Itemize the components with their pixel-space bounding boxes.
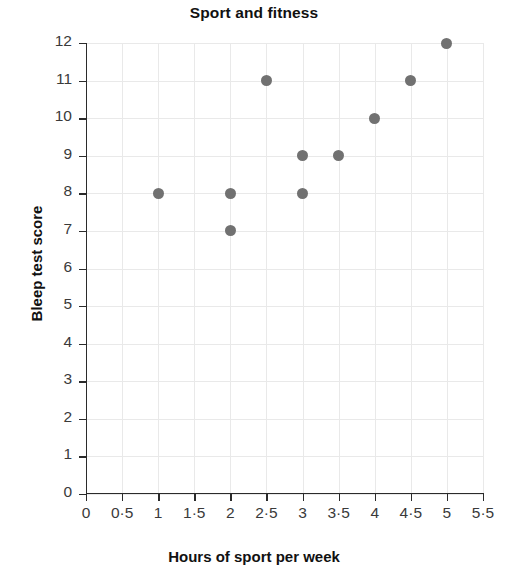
- y-axis-tick-label: 7: [28, 220, 72, 238]
- y-axis-tick-label: 1: [28, 445, 72, 463]
- y-axis-tick: [79, 81, 86, 82]
- y-axis-tick-label: 10: [28, 107, 72, 125]
- data-point: [225, 225, 236, 236]
- y-axis-tick-label: 12: [28, 32, 72, 50]
- scatter-chart-figure: Sport and fitness Bleep test score 01234…: [0, 0, 508, 581]
- x-axis-tick: [339, 494, 340, 501]
- data-point: [225, 188, 236, 199]
- x-axis-tick: [303, 494, 304, 501]
- x-axis-tick: [411, 494, 412, 501]
- y-axis-tick-label: 6: [28, 258, 72, 276]
- x-axis-tick: [194, 494, 195, 501]
- x-axis-tick: [230, 494, 231, 501]
- y-axis-tick: [79, 156, 86, 157]
- y-axis-tick: [79, 456, 86, 457]
- x-axis-tick: [86, 494, 87, 501]
- x-axis-tick: [447, 494, 448, 501]
- data-point: [153, 188, 164, 199]
- y-axis-tick: [79, 269, 86, 270]
- y-axis-tick: [79, 381, 86, 382]
- y-axis-tick-label: 5: [28, 295, 72, 313]
- y-axis-tick: [79, 494, 86, 495]
- y-axis-tick-label: 11: [28, 70, 72, 88]
- data-point: [441, 38, 452, 49]
- y-axis-tick: [79, 306, 86, 307]
- x-axis-tick: [122, 494, 123, 501]
- x-axis-tick: [375, 494, 376, 501]
- x-axis-title: Hours of sport per week: [0, 548, 508, 565]
- x-axis-tick: [483, 494, 484, 501]
- data-points-layer: [86, 43, 483, 494]
- y-axis-tick: [79, 231, 86, 232]
- data-point: [369, 113, 380, 124]
- data-point: [297, 188, 308, 199]
- y-axis-tick: [79, 43, 86, 44]
- y-axis-tick: [79, 193, 86, 194]
- chart-title: Sport and fitness: [0, 4, 508, 22]
- y-axis-tick: [79, 344, 86, 345]
- plot-area: [86, 43, 483, 494]
- y-axis-tick-label: 8: [28, 182, 72, 200]
- y-axis-line: [86, 43, 87, 495]
- x-axis-tick: [158, 494, 159, 501]
- data-point: [333, 150, 344, 161]
- y-axis-tick: [79, 419, 86, 420]
- y-axis-tick-label: 2: [28, 408, 72, 426]
- x-axis-line: [86, 493, 484, 494]
- y-axis-tick-label: 0: [28, 483, 72, 501]
- x-axis-tick-label: 5·5: [458, 504, 508, 522]
- data-point: [261, 75, 272, 86]
- y-axis-tick-label: 3: [28, 370, 72, 388]
- x-axis-tick: [266, 494, 267, 501]
- y-axis-tick-label: 9: [28, 145, 72, 163]
- y-axis-tick: [79, 118, 86, 119]
- y-axis-tick-label: 4: [28, 333, 72, 351]
- data-point: [297, 150, 308, 161]
- gridline-vertical: [483, 43, 484, 494]
- data-point: [405, 75, 416, 86]
